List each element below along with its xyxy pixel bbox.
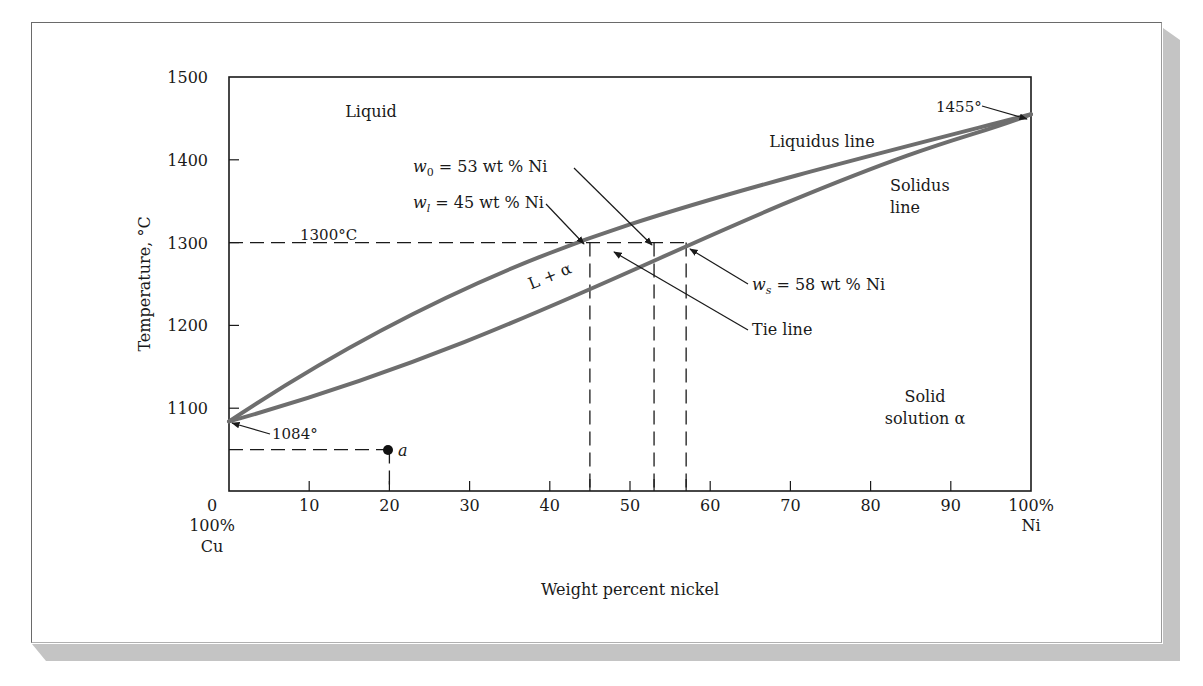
ws-annotation: ws = 58 wt % Ni bbox=[752, 275, 885, 297]
y-tick-label: 1300 bbox=[167, 234, 208, 253]
two-phase-region-label: L + α bbox=[526, 259, 575, 294]
x-tick-label: 100% bbox=[1008, 496, 1054, 515]
liquidus-curve bbox=[229, 114, 1031, 421]
solid-solution-label-1: Solid bbox=[904, 387, 945, 406]
x-tick-label: 70 bbox=[780, 496, 800, 515]
ws-rest: = 58 wt % Ni bbox=[771, 275, 885, 294]
w0-arrow bbox=[574, 168, 652, 245]
w0-var: w bbox=[413, 157, 427, 176]
region-liquid-label: Liquid bbox=[345, 102, 397, 121]
phase-curves bbox=[229, 114, 1031, 421]
x-right-end-element: Ni bbox=[1021, 516, 1040, 535]
x-left-end-pct: 100% bbox=[189, 516, 235, 535]
x-tick-label: 60 bbox=[700, 496, 720, 515]
reference-lines bbox=[229, 243, 686, 491]
w0-sub: 0 bbox=[427, 166, 434, 179]
ni-melting-point-label: 1455° bbox=[936, 98, 982, 116]
wl-rest: = 45 wt % Ni bbox=[430, 193, 544, 212]
wl-annotation: wl = 45 wt % Ni bbox=[413, 193, 544, 215]
isotherm-label: 1300°C bbox=[300, 226, 357, 244]
x-axis-title: Weight percent nickel bbox=[541, 580, 719, 599]
ws-arrow bbox=[690, 249, 748, 284]
w0-rest: = 53 wt % Ni bbox=[434, 157, 548, 176]
x-tick-label: 80 bbox=[860, 496, 880, 515]
x-tick-label: 90 bbox=[941, 496, 961, 515]
y-tick-label: 1500 bbox=[167, 68, 208, 87]
x-tick-label: 40 bbox=[540, 496, 560, 515]
ni-melting-point-arrow bbox=[982, 106, 1027, 119]
cu-melting-point-label: 1084° bbox=[272, 425, 318, 443]
liquidus-line-label: Liquidus line bbox=[769, 132, 874, 151]
y-tick-label: 1200 bbox=[167, 316, 208, 335]
cu-melting-point-arrow bbox=[232, 423, 270, 434]
phase-diagram: 0102030405060708090100%11001200130014001… bbox=[0, 0, 1203, 686]
wl-var: w bbox=[413, 193, 427, 212]
solidus-curve bbox=[229, 114, 1031, 421]
solidus-line-label-2: line bbox=[890, 198, 920, 217]
wl-arrow bbox=[546, 204, 584, 244]
x-tick-label: 50 bbox=[620, 496, 640, 515]
x-tick-label: 20 bbox=[379, 496, 399, 515]
point-a-marker bbox=[383, 445, 393, 455]
y-tick-label: 1400 bbox=[167, 151, 208, 170]
ws-var: w bbox=[752, 275, 766, 294]
x-tick-label: 30 bbox=[459, 496, 479, 515]
point-a-label: a bbox=[398, 441, 408, 460]
axis-tick-labels: 0102030405060708090100%11001200130014001… bbox=[167, 68, 1054, 515]
tie-line-arrow bbox=[614, 252, 748, 330]
x-left-end-element: Cu bbox=[201, 537, 224, 556]
x-tick-label: 10 bbox=[299, 496, 319, 515]
plot-axes bbox=[229, 77, 1031, 491]
plot-border bbox=[229, 77, 1031, 491]
solid-solution-label-2: solution α bbox=[885, 409, 966, 428]
tie-line-label: Tie line bbox=[752, 320, 812, 339]
solidus-line-label-1: Solidus bbox=[890, 176, 950, 195]
w0-annotation: w0 = 53 wt % Ni bbox=[413, 157, 547, 179]
x-tick-label: 0 bbox=[207, 496, 217, 515]
y-axis-title: Temperature, °C bbox=[135, 216, 154, 351]
y-tick-label: 1100 bbox=[167, 399, 208, 418]
